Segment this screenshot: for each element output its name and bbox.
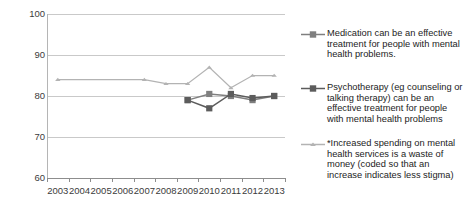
chart-legend: Medication can be an effective treatment… xyxy=(300,0,466,204)
legend-label: Medication can be an effective treatment… xyxy=(326,28,466,60)
legend-label: *Increased spending on mental health ser… xyxy=(326,138,466,180)
data-point-marker xyxy=(228,91,234,97)
data-point-marker xyxy=(271,93,277,99)
data-series xyxy=(185,91,278,112)
data-series xyxy=(55,66,277,90)
legend-item[interactable]: Psychotherapy (eg counseling or talking … xyxy=(300,82,466,124)
legend-item[interactable]: Medication can be an effective treatment… xyxy=(300,28,466,60)
data-point-marker xyxy=(206,91,212,97)
data-point-marker xyxy=(207,66,212,69)
legend-triangle-marker-icon xyxy=(300,139,326,150)
legend-label: Psychotherapy (eg counseling or talking … xyxy=(326,82,466,124)
data-point-marker xyxy=(249,95,255,101)
data-point-marker xyxy=(185,97,191,103)
plot-area: 10090807060 2003200420052006200720082009… xyxy=(0,0,300,204)
legend-square-marker-icon xyxy=(300,83,326,94)
legend-square-marker-icon xyxy=(300,29,326,40)
legend-item[interactable]: *Increased spending on mental health ser… xyxy=(300,138,466,180)
data-series-layer xyxy=(0,0,300,204)
chart-container: 10090807060 2003200420052006200720082009… xyxy=(0,0,466,204)
data-point-marker xyxy=(206,105,212,111)
